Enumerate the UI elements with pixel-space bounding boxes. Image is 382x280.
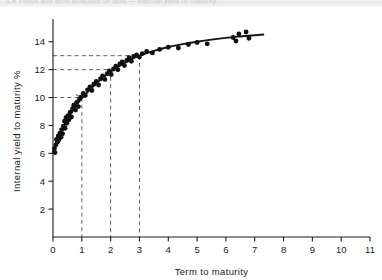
axis-lines bbox=[53, 19, 370, 237]
data-point bbox=[109, 72, 114, 77]
x-tick-label: 11 bbox=[365, 244, 375, 255]
data-point bbox=[69, 115, 74, 120]
x-tick-label: 7 bbox=[252, 244, 257, 255]
y-tick-label: 8 bbox=[40, 120, 45, 131]
data-point bbox=[236, 32, 241, 37]
data-point bbox=[115, 67, 120, 72]
data-point bbox=[166, 45, 171, 50]
tick-labels-group: 012345678910112468101214 bbox=[34, 36, 375, 255]
data-point bbox=[122, 63, 127, 68]
scatter-plot: 012345678910112468101214 Term to maturit… bbox=[0, 7, 382, 280]
data-point bbox=[144, 49, 149, 54]
y-tick-label: 10 bbox=[34, 92, 45, 103]
y-axis-title: Internal yield to maturity % bbox=[11, 70, 22, 192]
x-tick-label: 5 bbox=[194, 244, 199, 255]
data-point bbox=[63, 126, 68, 131]
x-tick-label: 2 bbox=[108, 244, 113, 255]
x-tick-label: 8 bbox=[281, 244, 286, 255]
y-tick-label: 2 bbox=[40, 204, 45, 215]
yield-curve-figure: 012345678910112468101214 Term to maturit… bbox=[0, 7, 382, 280]
page-header-text: 1.4 Yields and term structure of debt — … bbox=[6, 0, 216, 4]
data-point bbox=[83, 93, 88, 98]
y-tick-label: 4 bbox=[40, 176, 45, 187]
x-tick-label: 0 bbox=[50, 244, 55, 255]
x-tick-label: 3 bbox=[137, 244, 142, 255]
data-point bbox=[195, 40, 200, 45]
data-point bbox=[96, 83, 101, 88]
x-tick-label: 4 bbox=[166, 244, 171, 255]
x-tick-label: 1 bbox=[79, 244, 84, 255]
data-point bbox=[129, 59, 134, 64]
data-point bbox=[244, 30, 249, 35]
data-point bbox=[60, 131, 65, 136]
data-point bbox=[89, 88, 94, 93]
data-point bbox=[234, 39, 239, 44]
y-tick-label: 12 bbox=[34, 64, 45, 75]
axes-group bbox=[49, 19, 371, 242]
data-point bbox=[53, 150, 58, 155]
y-tick-label: 6 bbox=[40, 148, 45, 159]
data-point bbox=[140, 51, 145, 56]
x-tick-label: 9 bbox=[310, 244, 315, 255]
x-tick-label: 6 bbox=[223, 244, 228, 255]
data-point bbox=[76, 104, 81, 109]
y-tick-label: 14 bbox=[34, 36, 45, 47]
x-tick-label: 10 bbox=[336, 244, 347, 255]
data-point bbox=[186, 42, 191, 47]
data-point bbox=[157, 47, 162, 52]
data-point bbox=[176, 46, 181, 51]
data-point bbox=[205, 41, 210, 46]
data-point bbox=[150, 50, 155, 55]
x-axis-title: Term to maturity bbox=[175, 266, 249, 277]
data-point bbox=[102, 77, 107, 82]
data-point bbox=[247, 36, 252, 41]
page-header-strip: 1.4 Yields and term structure of debt — … bbox=[0, 0, 382, 7]
